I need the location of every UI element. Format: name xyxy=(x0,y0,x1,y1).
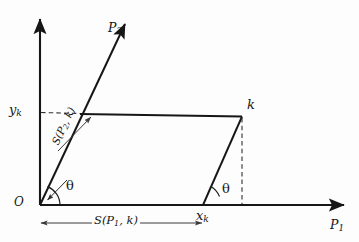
label-span-p1: S(P1, k) xyxy=(92,215,140,228)
figure-canvas: P2 P1 k yk xk O θ θ S(P1, k) S(P2, k) xyxy=(0,0,359,242)
label-origin: O xyxy=(14,196,24,208)
label-x-k: xk xyxy=(196,209,209,224)
right-angle-arc xyxy=(211,187,220,197)
label-p2-axis: P2 xyxy=(108,22,122,36)
label-theta-origin: θ xyxy=(66,179,74,192)
label-y-k: yk xyxy=(9,103,22,118)
diagram-svg xyxy=(0,0,359,242)
label-p1-axis: P1 xyxy=(330,219,344,233)
label-vertex-k: k xyxy=(247,98,255,111)
parallelogram-top-edge xyxy=(80,114,242,117)
label-theta-right: θ xyxy=(222,182,230,195)
